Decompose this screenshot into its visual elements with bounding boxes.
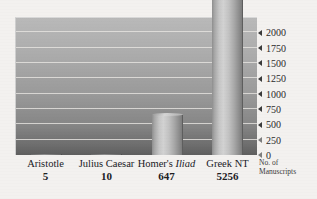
y-tick-label: 750 (266, 104, 281, 115)
y-tick-1500: 1500 (258, 57, 286, 69)
tick-marker-triangle-icon (258, 137, 262, 143)
y-tick-label: 500 (266, 119, 281, 130)
bar-body (152, 115, 183, 155)
y-tick-250: 250 (258, 134, 281, 146)
x-category-name-text: Aristotle (27, 158, 64, 169)
bar-greek-nt[interactable] (212, 0, 243, 155)
bars-layer (16, 18, 257, 155)
y-axis-title: No. ofManuscripts (259, 158, 315, 176)
y-axis: 025050075010001250150017502000 (258, 17, 316, 157)
bar-body (31, 154, 62, 155)
y-tick-2000: 2000 (258, 26, 286, 38)
x-category-julius-caesar: Julius Caesar10 (76, 157, 137, 183)
x-category-value: 5 (15, 170, 76, 183)
x-category-name: Homer's Iliad (136, 157, 197, 170)
tick-marker-triangle-icon (258, 91, 262, 97)
x-category-value: 5256 (197, 170, 258, 183)
tick-marker-triangle-icon (258, 122, 262, 128)
bar-homer-s-iliad[interactable] (152, 115, 183, 155)
x-category-name: Julius Caesar (76, 157, 137, 170)
y-tick-label: 1000 (266, 88, 286, 99)
y-tick-750: 750 (258, 103, 281, 115)
bar-chart-figure: 025050075010001250150017502000 Aristotle… (0, 0, 317, 199)
x-category-name-text: Julius Caesar (79, 158, 135, 169)
x-category-name: Aristotle (15, 157, 76, 170)
tick-marker-triangle-icon (258, 60, 262, 66)
y-tick-label: 250 (266, 134, 281, 145)
y-tick-1750: 1750 (258, 42, 286, 54)
y-tick-500: 500 (258, 118, 281, 130)
y-tick-1000: 1000 (258, 88, 286, 100)
tick-marker-triangle-icon (258, 76, 262, 82)
bar-body (91, 154, 122, 155)
y-tick-label: 1250 (266, 73, 286, 84)
x-category-value: 647 (136, 170, 197, 183)
bar-julius-caesar[interactable] (91, 154, 122, 155)
y-tick-label: 1500 (266, 58, 286, 69)
bar-aristotle[interactable] (31, 154, 62, 155)
y-axis-title-line: Manuscripts (259, 167, 315, 176)
tick-marker-triangle-icon (258, 45, 262, 51)
y-tick-label: 1750 (266, 42, 286, 53)
x-category-homer-s-iliad: Homer's Iliad647 (136, 157, 197, 183)
x-category-greek-nt: Greek NT5256 (197, 157, 258, 183)
x-category-name-text: Greek NT (206, 158, 248, 169)
y-axis-title-line: No. of (259, 158, 315, 167)
tick-marker-triangle-icon (258, 30, 262, 36)
x-category-name-title: Iliad (175, 158, 195, 169)
y-tick-1250: 1250 (258, 72, 286, 84)
x-category-name: Greek NT (197, 157, 258, 170)
y-tick-label: 2000 (266, 27, 286, 38)
plot-area (15, 17, 257, 155)
x-category-aristotle: Aristotle5 (15, 157, 76, 183)
x-category-name-text: Homer's (138, 158, 176, 169)
x-category-value: 10 (76, 170, 137, 183)
tick-marker-triangle-icon (258, 106, 262, 112)
x-axis-category-labels: Aristotle5Julius Caesar10Homer's Iliad64… (15, 157, 257, 193)
bar-body (212, 0, 243, 155)
